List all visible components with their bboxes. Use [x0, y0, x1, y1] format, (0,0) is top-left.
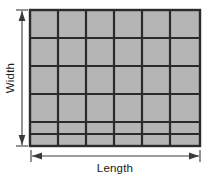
length-arrow-head-left — [32, 153, 42, 160]
width-arrow-head-up — [19, 11, 26, 21]
width-arrow-head-down — [19, 135, 26, 145]
width-label: Width — [4, 63, 16, 93]
length-arrow-head-right — [189, 153, 199, 160]
length-label: Length — [97, 162, 133, 174]
length-dimension-arrow — [31, 150, 200, 162]
width-dimension-arrow — [16, 10, 28, 146]
rectangle-grid-figure: Width Length — [0, 0, 210, 177]
figure-canvas: Width Length — [0, 0, 210, 177]
